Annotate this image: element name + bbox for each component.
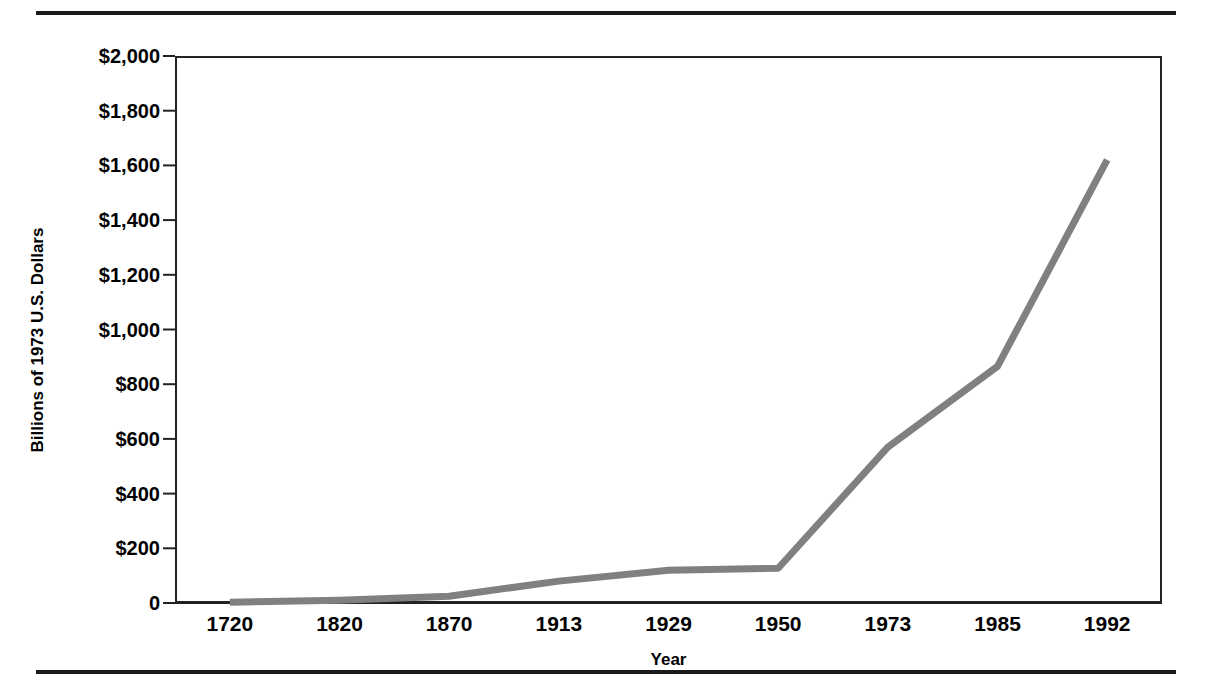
bottom-horizontal-rule [36, 670, 1176, 674]
x-axis-tick-label: 1929 [609, 612, 729, 636]
x-axis-tick-label: 1950 [718, 612, 838, 636]
x-axis-tick-label: 1870 [389, 612, 509, 636]
data-series-line [230, 160, 1107, 602]
line-chart: Billions of 1973 U.S. Dollars 0$200$400$… [0, 30, 1209, 660]
x-axis-tick-label: 1820 [280, 612, 400, 636]
top-horizontal-rule [36, 11, 1176, 15]
x-axis-title: Year [175, 650, 1162, 670]
x-axis-tick-label: 1985 [938, 612, 1058, 636]
data-series-group [230, 160, 1107, 602]
x-axis-tick-labels: 172018201870191319291950197319851992 [175, 612, 1162, 646]
x-axis-tick-label: 1913 [499, 612, 619, 636]
x-axis-tick-label: 1992 [1047, 612, 1167, 636]
x-axis-tick-label: 1973 [828, 612, 948, 636]
x-axis-tick-label: 1720 [170, 612, 290, 636]
y-axis-ticks [163, 56, 1162, 603]
figure-container: Billions of 1973 U.S. Dollars 0$200$400$… [0, 0, 1209, 693]
chart-svg-layer [0, 30, 1209, 660]
